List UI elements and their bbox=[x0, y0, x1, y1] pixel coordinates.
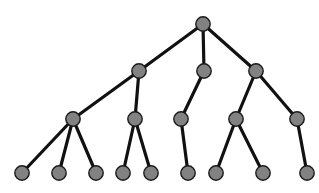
tree-node bbox=[132, 64, 146, 78]
tree-edge bbox=[203, 24, 256, 71]
tree-node bbox=[290, 112, 304, 126]
tree-edge bbox=[181, 119, 188, 173]
tree-edge bbox=[135, 119, 151, 173]
tree-edge bbox=[297, 119, 307, 173]
tree-node bbox=[256, 166, 270, 180]
tree-node bbox=[116, 166, 130, 180]
tree-edge bbox=[73, 119, 96, 173]
tree-node bbox=[196, 17, 210, 31]
tree-edge bbox=[181, 71, 204, 119]
tree-node bbox=[66, 112, 80, 126]
tree-edge bbox=[139, 24, 203, 71]
tree-node bbox=[89, 166, 103, 180]
tree-node bbox=[52, 166, 66, 180]
tree-diagram bbox=[0, 0, 319, 193]
tree-edge bbox=[236, 119, 263, 173]
tree-node bbox=[209, 166, 223, 180]
tree-node bbox=[15, 166, 29, 180]
tree-node bbox=[300, 166, 314, 180]
tree-edge bbox=[216, 119, 236, 173]
tree-edges bbox=[22, 24, 307, 173]
tree-edge bbox=[123, 119, 135, 173]
tree-node bbox=[249, 64, 263, 78]
tree-node bbox=[181, 166, 195, 180]
tree-node bbox=[128, 112, 142, 126]
tree-node bbox=[144, 166, 158, 180]
tree-nodes bbox=[15, 17, 314, 180]
tree-node bbox=[229, 112, 243, 126]
tree-edge bbox=[256, 71, 297, 119]
tree-edge bbox=[73, 71, 139, 119]
tree-node bbox=[174, 112, 188, 126]
tree-node bbox=[197, 64, 211, 78]
